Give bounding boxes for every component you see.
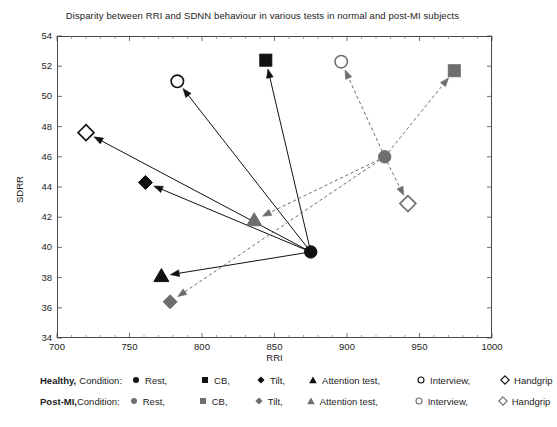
legend-row-post-mi: Post-MI,Condition:Rest,CB,Tilt,Attention… [40,395,557,408]
x-axis-title: RRI [57,352,492,363]
open-circle-icon [413,395,425,407]
legend-post-mi-item-handgrip[interactable]: Handgrip [497,395,551,407]
legend-item-label: Rest, [143,396,165,407]
legend-healthy-item-handgrip[interactable]: Handgrip [499,374,553,386]
legend-healthy-item-attentiontest[interactable]: Attention test, [307,374,380,386]
filled-circle-icon [130,374,142,386]
y-tick-label: 38 [24,272,52,283]
filled-diamond-icon [253,395,265,407]
y-tick-label: 54 [24,30,52,41]
x-tick-label: 850 [253,341,297,352]
y-tick-label: 40 [24,241,52,252]
x-tick-label: 800 [180,341,224,352]
legend-item-label: Tilt, [270,375,285,386]
legend-healthy-item-tilt[interactable]: Tilt, [255,374,285,386]
filled-diamond-icon [255,374,267,386]
x-tick-label: 900 [325,341,369,352]
legend-post-mi-condition-label: Condition: [77,396,120,407]
legend-post-mi-item-interview[interactable]: Interview, [413,395,468,407]
legend-healthy-item-interview[interactable]: Interview, [415,374,470,386]
legend-item-label: Handgrip [512,396,551,407]
y-tick-label: 46 [24,151,52,162]
legend-item-label: Interview, [430,375,470,386]
legend-item-label: Attention test, [322,375,380,386]
y-tick-label: 36 [24,302,52,313]
legend-item-label: Rest, [145,375,167,386]
open-diamond-icon [499,374,511,386]
legend-row-healthy: Healthy,Condition:Rest,CB,Tilt,Attention… [40,374,557,387]
open-diamond-icon [497,395,509,407]
plot-area [57,36,492,338]
legend-item-label: Interview, [428,396,468,407]
filled-square-icon [199,374,211,386]
x-tick-label: 1000 [470,341,514,352]
legend-healthy-item-rest[interactable]: Rest, [130,374,167,386]
legend-post-mi-item-tilt[interactable]: Tilt, [253,395,283,407]
legend-item-label: Handgrip [514,375,553,386]
legend-healthy-group-label: Healthy, [40,375,76,386]
legend-post-mi-item-attentiontest[interactable]: Attention test, [305,395,378,407]
legend-post-mi-group-label: Post-MI, [40,396,77,407]
y-tick-label: 50 [24,90,52,101]
legend-item-label: Attention test, [320,396,378,407]
x-tick-label: 700 [35,341,79,352]
legend-post-mi-item-cb[interactable]: CB, [197,395,228,407]
legend-item-label: Tilt, [268,396,283,407]
filled-circle-icon [128,395,140,407]
y-axis-title: SDRR [14,176,25,203]
filled-square-icon [197,395,209,407]
legend-healthy-condition-label: Condition: [79,375,122,386]
legend-item-label: CB, [212,396,228,407]
filled-triangle-icon [307,374,319,386]
y-tick-label: 42 [24,211,52,222]
y-tick-label: 52 [24,60,52,71]
open-circle-icon [415,374,427,386]
filled-triangle-icon [305,395,317,407]
y-tick-label: 44 [24,181,52,192]
legend-item-label: CB, [214,375,230,386]
x-tick-label: 750 [108,341,152,352]
y-tick-label: 48 [24,121,52,132]
x-tick-label: 950 [398,341,442,352]
chart-title: Disparity between RRI and SDNN behaviour… [0,10,525,21]
legend-post-mi-item-rest[interactable]: Rest, [128,395,165,407]
legend-healthy-item-cb[interactable]: CB, [199,374,230,386]
